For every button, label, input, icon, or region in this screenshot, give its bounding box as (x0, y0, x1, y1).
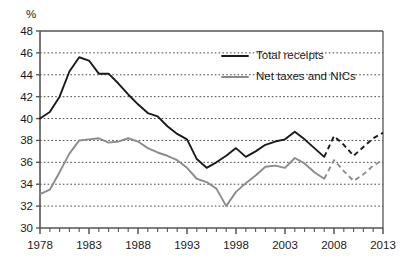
y-tick-label-48: 48 (20, 25, 33, 37)
chart-legend: Total receiptsNet taxes and NICs (222, 49, 356, 82)
x-tick-label-1983: 1983 (76, 239, 102, 251)
x-axis-tick-labels: 19781983198819931998200320082013 (27, 239, 396, 251)
series-line-forecast-0 (324, 133, 383, 157)
y-axis-tick-labels: 30323436384042444648 (20, 25, 40, 234)
chart-container: 30323436384042444648 1978198319881993199… (0, 0, 401, 258)
x-tick-label-1998: 1998 (223, 239, 249, 251)
y-tick-label-34: 34 (20, 178, 33, 190)
y-axis-unit-label: % (26, 8, 36, 20)
plot-frame (40, 31, 383, 228)
series-line-forecast-1 (324, 160, 383, 181)
y-tick-label-32: 32 (20, 200, 33, 212)
x-tick-label-1993: 1993 (174, 239, 200, 251)
legend-label-1: Net taxes and NICs (256, 70, 356, 82)
x-tick-label-2013: 2013 (370, 239, 396, 251)
x-axis-ticks (40, 228, 383, 234)
y-tick-label-46: 46 (20, 47, 33, 59)
y-tick-label-36: 36 (20, 156, 33, 168)
y-tick-label-40: 40 (20, 113, 33, 125)
x-tick-label-2003: 2003 (272, 239, 298, 251)
series-line-historical-1 (40, 138, 324, 206)
y-tick-label-38: 38 (20, 134, 33, 146)
y-tick-label-42: 42 (20, 91, 33, 103)
legend-label-0: Total receipts (256, 49, 324, 61)
x-tick-label-1988: 1988 (125, 239, 151, 251)
y-tick-label-30: 30 (20, 222, 33, 234)
y-tick-label-44: 44 (20, 69, 33, 81)
x-tick-label-2008: 2008 (321, 239, 347, 251)
x-tick-label-1978: 1978 (27, 239, 53, 251)
line-chart: 30323436384042444648 1978198319881993199… (0, 0, 401, 258)
